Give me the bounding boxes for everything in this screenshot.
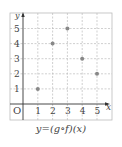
y-tick-label: 1 — [14, 84, 20, 94]
x-axis-label: x — [106, 102, 111, 112]
x-tick-label: 4 — [80, 106, 86, 116]
x-tick-label: 5 — [95, 106, 101, 116]
data-point — [36, 87, 40, 91]
data-point — [80, 57, 84, 61]
x-tick-label: 3 — [65, 106, 71, 116]
y-tick-label: 4 — [14, 39, 20, 49]
data-point — [51, 42, 55, 46]
origin-label: O — [13, 105, 21, 116]
tick-labels: 1234512345 — [14, 24, 101, 117]
y-tick-label: 3 — [14, 54, 20, 64]
x-tick-label: 2 — [50, 106, 56, 116]
data-point — [65, 27, 69, 31]
data-point — [95, 72, 99, 76]
y-tick-label: 2 — [14, 69, 20, 79]
chart-caption: y=(g∘f)(x) — [0, 123, 122, 134]
y-axis-label: y — [14, 11, 20, 20]
x-tick-label: 1 — [35, 106, 41, 116]
y-tick-label: 5 — [14, 24, 20, 34]
